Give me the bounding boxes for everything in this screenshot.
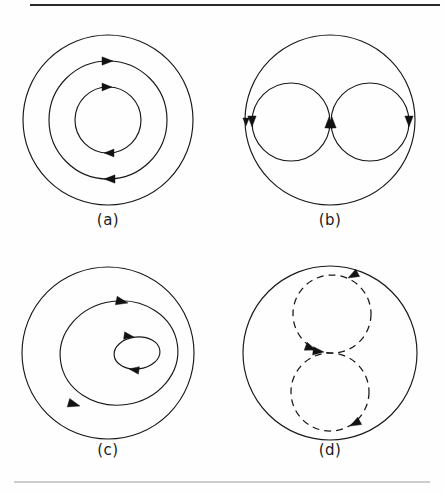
figure-svg: (a) (b) (c) xyxy=(0,0,444,494)
panel-d-lower-dashed-bottom-arrow-icon xyxy=(348,417,362,430)
panel-d-caption: (d) xyxy=(319,441,342,459)
panel-c-middle-oval-top-arrow-icon xyxy=(115,296,129,307)
panel-c: (c) xyxy=(22,267,194,459)
panel-c-caption: (c) xyxy=(97,441,118,459)
panel-b: (b) xyxy=(243,35,415,229)
panel-a-caption: (a) xyxy=(97,211,119,229)
panel-a-inner-bottom-arrow-icon xyxy=(104,149,114,157)
panel-c-middle-oval xyxy=(53,293,184,412)
panel-d: (d) xyxy=(243,266,417,459)
panel-c-middle-oval-bottom-arrow-icon xyxy=(67,398,81,410)
panel-b-caption: (b) xyxy=(319,211,342,229)
panel-c-inner-ellipse-bottom-arrow-icon xyxy=(128,365,139,374)
panel-a-inner-circle xyxy=(75,87,141,153)
panel-b-right-small-circle xyxy=(331,83,409,161)
panel-d-upper-dashed-circle xyxy=(293,275,371,353)
panel-a: (a) xyxy=(23,35,193,229)
panel-a-inner-top-arrow-icon xyxy=(102,83,112,91)
panel-a-middle-top-arrow-icon xyxy=(102,57,113,65)
panel-a-middle-circle xyxy=(49,61,167,179)
panel-b-left-small-circle xyxy=(252,83,330,161)
panel-c-inner-ellipse xyxy=(112,335,161,372)
panel-b-left-circle-left-arrow-icon xyxy=(248,116,256,127)
panel-b-right-circle-right-arrow-icon xyxy=(405,116,413,127)
panel-c-outer-circle xyxy=(22,267,194,439)
panel-b-outer-left-arrow-icon xyxy=(243,118,249,126)
panel-a-middle-bottom-arrow-icon xyxy=(104,175,115,183)
figure-container: (a) (b) (c) xyxy=(0,0,444,494)
